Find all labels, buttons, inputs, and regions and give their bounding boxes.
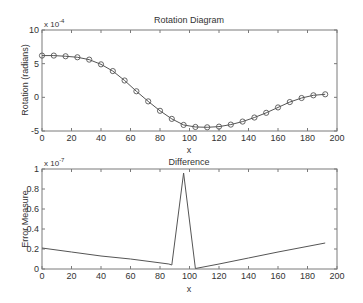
x-tick-label: 160 (270, 271, 285, 281)
x-tick-label: 100 (182, 133, 197, 143)
y-tick-label: 0.8 (26, 184, 39, 194)
x-tick-label: 40 (96, 271, 106, 281)
figure: Rotation Diagram x 10-4 Rotation (radian… (0, 0, 363, 303)
series-line (42, 173, 325, 269)
x-tick-label: 200 (329, 271, 344, 281)
plot-area-frame (42, 30, 337, 131)
y-tick-label: 0 (34, 264, 39, 274)
chart-title: Rotation Diagram (154, 15, 224, 25)
x-tick-label: 140 (241, 271, 256, 281)
x-tick-label: 160 (270, 133, 285, 143)
x-tick-label: 0 (39, 271, 44, 281)
x-tick-label: 20 (66, 133, 76, 143)
x-tick-label: 120 (211, 133, 226, 143)
x-tick-label: 180 (300, 133, 315, 143)
difference-plot: Difference x 10-7 Error Measure x 020406… (20, 157, 345, 294)
x-tick-label: 120 (211, 271, 226, 281)
y-tick-label: 10 (29, 25, 39, 35)
y-axis-label: Error Measure (20, 190, 30, 248)
x-tick-label: 100 (182, 271, 197, 281)
x-tick-label: 0 (39, 133, 44, 143)
y-axis-label: Rotation (radians) (20, 44, 30, 116)
x-tick-label: 80 (155, 271, 165, 281)
y-tick-label: 0.6 (26, 204, 39, 214)
x-tick-label: 20 (66, 271, 76, 281)
y-tick-label: -5 (31, 126, 39, 136)
x-tick-label: 80 (155, 133, 165, 143)
x-axis-label: x (187, 145, 192, 155)
x-tick-label: 140 (241, 133, 256, 143)
y-exponent: x 10-7 (44, 157, 65, 168)
x-tick-label: 200 (329, 133, 344, 143)
y-tick-label: 1 (34, 164, 39, 174)
x-axis-label: x (187, 284, 192, 294)
x-tick-label: 180 (300, 271, 315, 281)
y-tick-label: 0 (34, 92, 39, 102)
series-line (42, 56, 325, 128)
y-tick-label: 0.4 (26, 224, 39, 234)
y-exponent: x 10-4 (44, 18, 65, 29)
y-tick-label: 0.2 (26, 244, 39, 254)
y-tick-label: 5 (34, 59, 39, 69)
chart-title: Difference (169, 157, 210, 167)
x-tick-label: 60 (125, 271, 135, 281)
rotation-diagram-plot: Rotation Diagram x 10-4 Rotation (radian… (20, 15, 345, 155)
x-tick-label: 40 (96, 133, 106, 143)
x-tick-label: 60 (125, 133, 135, 143)
